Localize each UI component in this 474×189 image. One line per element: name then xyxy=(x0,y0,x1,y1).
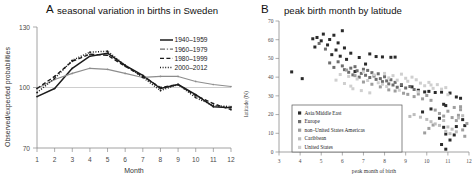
panel-b-ytick-label: 30 xyxy=(268,93,274,99)
panel-a-marker xyxy=(195,97,197,99)
panel-b-legend-swatch-3 xyxy=(298,137,301,140)
panel-b-point-4 xyxy=(419,82,422,85)
panel-b-point-2 xyxy=(394,89,397,92)
panel-b-point-1 xyxy=(408,85,411,88)
panel-b-point-1 xyxy=(368,76,371,79)
panel-b-point-1 xyxy=(381,80,384,83)
panel-b-xtick-label: 11 xyxy=(445,158,450,164)
panel-a-marker xyxy=(107,69,109,71)
panel-b-point-1 xyxy=(383,75,386,78)
panel-b-point-2 xyxy=(453,106,456,109)
panel-b-point-0 xyxy=(449,139,452,142)
panel-a-xtick-label: 11 xyxy=(210,156,217,163)
panel-b-point-4 xyxy=(339,73,342,76)
panel-b-point-2 xyxy=(463,135,466,138)
panel-a: A seasonal variation in births in Sweden… xyxy=(0,0,237,189)
panel-b-point-3 xyxy=(455,130,458,133)
panel-a-marker xyxy=(230,109,232,111)
panel-b-point-0 xyxy=(389,56,392,59)
panel-b-point-4 xyxy=(417,90,420,93)
panel-b-point-0 xyxy=(394,56,397,59)
panel-b-point-2 xyxy=(387,88,390,91)
panel-a-xlabel: Month xyxy=(124,167,144,174)
panel-b-point-0 xyxy=(440,143,443,146)
panel-b-point-4 xyxy=(406,80,409,83)
panel-a-xtick-label: 3 xyxy=(70,156,74,163)
panel-b-point-3 xyxy=(451,128,454,131)
panel-b-point-0 xyxy=(427,90,430,93)
panel-b-point-4 xyxy=(444,86,447,89)
panel-b-legend-label-2: non–United States Americas xyxy=(305,127,365,133)
panel-b-point-0 xyxy=(337,41,340,44)
panel-a-marker xyxy=(89,51,91,53)
panel-b-xtick-label: 7 xyxy=(362,158,365,164)
panel-b-point-0 xyxy=(459,97,462,100)
panel-b-point-3 xyxy=(413,113,416,116)
panel-b-point-3 xyxy=(434,122,437,125)
panel-a-xtick-label: 12 xyxy=(227,156,235,163)
panel-b-point-4 xyxy=(427,81,430,84)
panel-b-point-4 xyxy=(440,88,443,91)
panel-b: B peak birth month by latitude latitude … xyxy=(237,0,474,189)
panel-a-legend-label-1: 1960–1979 xyxy=(175,46,208,53)
panel-b-point-0 xyxy=(444,133,447,136)
panel-a-marker xyxy=(124,64,126,66)
panel-a-marker xyxy=(89,67,91,69)
panel-b-point-0 xyxy=(444,104,447,107)
panel-b-point-2 xyxy=(370,83,373,86)
panel-b-point-2 xyxy=(379,85,382,88)
panel-b-point-4 xyxy=(351,87,354,90)
panel-b-point-4 xyxy=(423,84,426,87)
panel-a-xtick-label: 6 xyxy=(123,156,127,163)
panel-b-point-0 xyxy=(328,38,331,41)
panel-b-point-4 xyxy=(368,91,371,94)
panel-b-xtick-label: 3 xyxy=(278,158,281,164)
panel-b-point-0 xyxy=(421,110,424,113)
panel-a-marker xyxy=(124,73,126,75)
panel-b-point-4 xyxy=(360,89,363,92)
panel-b-point-2 xyxy=(459,105,462,108)
panel-b-point-4 xyxy=(377,81,380,84)
panel-b-point-0 xyxy=(461,118,464,121)
panel-b-point-0 xyxy=(358,56,361,59)
panel-a-marker xyxy=(107,50,109,52)
panel-b-xtick-label: 5 xyxy=(320,158,323,164)
panel-b-xtick-label: 8 xyxy=(383,158,386,164)
y-tick-100: 100 xyxy=(19,84,30,91)
panel-a-legend: 1940–19591960–19791980–19992000–2012 xyxy=(160,36,208,71)
panel-b-point-1 xyxy=(354,65,357,68)
panel-b-point-0 xyxy=(444,148,447,151)
panel-b-point-2 xyxy=(402,92,405,95)
panel-a-marker xyxy=(195,81,197,83)
panel-b-point-0 xyxy=(345,58,348,61)
panel-b-point-1 xyxy=(332,66,335,69)
panel-b-point-1 xyxy=(400,83,403,86)
panel-b-point-0 xyxy=(434,91,437,94)
panel-a-xtick-label: 10 xyxy=(192,156,200,163)
panel-b-legend-label-3: Caribbean xyxy=(305,135,327,141)
panel-b-ylabel: latitude (N) xyxy=(243,91,250,117)
panel-a-marker xyxy=(177,84,179,86)
panel-b-point-0 xyxy=(313,46,316,49)
panel-b-point-1 xyxy=(375,78,378,81)
panel-b-point-0 xyxy=(364,63,367,66)
panel-b-point-1 xyxy=(366,69,369,72)
panel-a-xtick-label: 5 xyxy=(106,156,110,163)
panel-b-point-3 xyxy=(457,116,460,119)
panel-b-point-4 xyxy=(430,84,433,87)
panel-b-point-1 xyxy=(396,86,399,89)
panel-b-point-1 xyxy=(385,79,388,82)
panel-a-marker xyxy=(36,88,38,90)
panel-b-point-4 xyxy=(383,72,386,75)
panel-b-point-1 xyxy=(341,64,344,67)
panel-b-ytick-label: 10 xyxy=(268,130,274,136)
panel-b-point-0 xyxy=(301,77,304,80)
panel-b-point-4 xyxy=(392,74,395,77)
panel-a-marker xyxy=(160,76,162,78)
panel-a-legend-label-2: 1980–1999 xyxy=(175,55,208,62)
panel-b-point-1 xyxy=(318,42,321,45)
panel-b-ytick-label: 70 xyxy=(268,18,274,24)
panel-b-point-1 xyxy=(404,86,407,89)
panel-a-marker xyxy=(107,54,109,56)
panel-b-point-2 xyxy=(451,116,454,119)
